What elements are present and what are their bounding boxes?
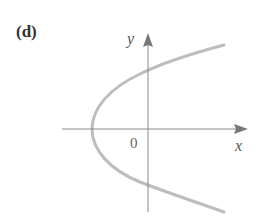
y-axis-label: y	[127, 30, 134, 48]
parabola-figure: (d) y x 0	[0, 0, 261, 222]
panel-label: (d)	[16, 22, 37, 42]
y-axis-arrow-icon	[143, 33, 153, 47]
origin-label: 0	[130, 135, 138, 152]
x-axis-label: x	[235, 137, 242, 155]
x-axis-arrow-icon	[234, 124, 248, 134]
